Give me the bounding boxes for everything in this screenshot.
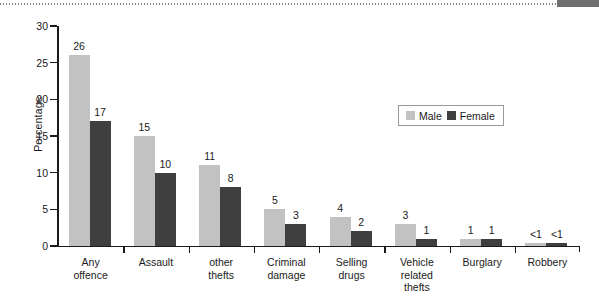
bar-chart: Percentage 051015202530 2617151011853423…: [0, 0, 599, 307]
bar-male: [134, 136, 155, 246]
bar-female: [220, 187, 241, 246]
category-label-line: Robbery: [507, 256, 587, 269]
bar-value-label: 3: [389, 210, 422, 221]
y-axis-tick: [50, 209, 57, 210]
bar-value-label: 8: [214, 173, 247, 184]
bar-female: [351, 231, 372, 246]
y-axis-tick-label: 15: [28, 130, 48, 142]
bar-value-label: 4: [324, 203, 357, 214]
y-axis-tick: [50, 245, 57, 246]
bar-male: [460, 239, 481, 246]
bar-value-label: 15: [128, 122, 161, 133]
bar-value-label: 17: [84, 107, 117, 118]
bar-value-label: 11: [193, 151, 226, 162]
y-axis-tick-label: 30: [28, 20, 48, 32]
legend-entry: Male: [406, 110, 442, 122]
y-axis-tick-label: 20: [28, 93, 48, 105]
bar-male: [69, 55, 90, 246]
y-axis-tick: [50, 99, 57, 100]
x-axis-tick: [123, 247, 124, 253]
x-axis-tick: [254, 247, 255, 253]
bar-female: [90, 121, 111, 246]
bar-value-label: 2: [345, 217, 378, 228]
bar-value-label: 1: [475, 225, 508, 236]
plot-bars: [58, 26, 580, 246]
bar-value-label: 3: [279, 210, 312, 221]
bar-female: [416, 239, 437, 246]
scan-artifact-dotted-line: [0, 3, 599, 5]
y-axis-tick-label: 25: [28, 57, 48, 69]
bar-female: [481, 239, 502, 246]
y-axis-tick: [50, 135, 57, 136]
legend-swatch: [447, 111, 456, 120]
x-axis-end-tick: [579, 246, 581, 252]
legend-entry: Female: [447, 110, 495, 122]
category-label-line: related: [377, 269, 457, 282]
bar-female: [155, 173, 176, 246]
y-axis-tick-label: 0: [28, 240, 48, 252]
bar-value-label: <1: [540, 229, 573, 240]
bar-female: [285, 224, 306, 246]
x-axis-tick: [189, 247, 190, 253]
category-label-line: thefts: [377, 281, 457, 294]
legend-label: Female: [460, 110, 495, 122]
bar-male: [525, 243, 546, 246]
x-axis-tick: [319, 247, 320, 253]
x-axis-tick: [384, 247, 385, 253]
y-axis-tick-label: 10: [28, 167, 48, 179]
bar-female: [546, 243, 567, 246]
bar-value-label: 1: [410, 225, 443, 236]
x-axis-category-label: Robbery: [507, 256, 587, 269]
bar-value-label: 5: [258, 195, 291, 206]
chart-legend: MaleFemale: [398, 105, 504, 126]
legend-label: Male: [419, 110, 442, 122]
x-axis-tick: [515, 247, 516, 253]
category-label-line: offence: [51, 269, 131, 282]
x-axis-tick: [450, 247, 451, 253]
scan-artifact-corner-block: [557, 0, 599, 7]
bar-value-label: 26: [63, 41, 96, 52]
bar-value-label: 10: [149, 159, 182, 170]
y-axis-tick: [50, 172, 57, 173]
y-axis-tick-label: 5: [28, 203, 48, 215]
y-axis-tick: [50, 25, 57, 26]
y-axis-tick: [50, 62, 57, 63]
legend-swatch: [406, 111, 415, 120]
